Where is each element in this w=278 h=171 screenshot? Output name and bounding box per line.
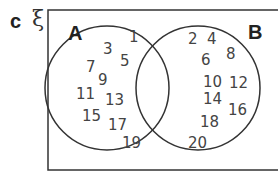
set-b-element: 16 bbox=[228, 101, 247, 119]
set-b-element: 14 bbox=[203, 90, 222, 108]
set-b-element: 18 bbox=[200, 113, 219, 131]
set-a-element: 11 bbox=[76, 85, 95, 103]
set-b-element: 4 bbox=[207, 30, 217, 48]
set-a-label: A bbox=[68, 22, 82, 44]
set-a-element: 15 bbox=[82, 107, 101, 125]
set-a-element: 1 bbox=[129, 28, 139, 46]
set-b-element: 12 bbox=[229, 74, 248, 92]
set-b-label: B bbox=[248, 21, 262, 43]
set-b-element: 6 bbox=[201, 51, 211, 69]
set-a-element: 19 bbox=[122, 134, 141, 152]
set-a-element: 7 bbox=[86, 58, 96, 76]
set-b-element: 10 bbox=[203, 73, 222, 91]
venn-diagram: A B 1 3 5 7 9 11 13 15 17 19 2 4 6 8 10 … bbox=[0, 0, 278, 171]
set-b-element: 8 bbox=[226, 45, 236, 63]
set-a-element: 5 bbox=[120, 52, 130, 70]
set-a-element: 9 bbox=[98, 71, 108, 89]
set-b-element: 2 bbox=[188, 30, 198, 48]
set-a-element: 3 bbox=[103, 40, 113, 58]
set-a-element: 13 bbox=[105, 91, 124, 109]
set-b-element: 20 bbox=[188, 134, 207, 152]
set-a-element: 17 bbox=[108, 116, 127, 134]
